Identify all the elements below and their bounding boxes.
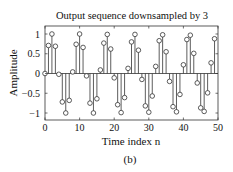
stem-marker-circle bbox=[181, 63, 186, 68]
plot-area bbox=[43, 26, 218, 120]
stem-marker-circle bbox=[195, 81, 200, 86]
y-tick-label: 0.5 bbox=[28, 48, 41, 59]
stem-point bbox=[164, 49, 169, 73]
y-axis-label: Amplitude bbox=[7, 49, 19, 96]
stem-point bbox=[198, 74, 203, 111]
stem-point bbox=[81, 45, 86, 73]
stem-point bbox=[171, 74, 176, 109]
stem-marker-circle bbox=[119, 110, 124, 115]
stem-marker-circle bbox=[126, 66, 131, 71]
stem-point bbox=[119, 74, 124, 115]
stem-marker-circle bbox=[74, 42, 79, 47]
stem-marker-circle bbox=[63, 111, 68, 116]
stem-marker-circle bbox=[50, 32, 55, 37]
stem-point bbox=[70, 70, 75, 75]
stem-marker-circle bbox=[102, 41, 107, 46]
stem-marker-circle bbox=[129, 40, 134, 45]
stem-marker-circle bbox=[60, 100, 65, 105]
stem-point bbox=[150, 74, 155, 99]
stem-marker-circle bbox=[136, 48, 141, 53]
stem-marker-circle bbox=[88, 101, 93, 106]
x-tick-label: 20 bbox=[109, 122, 119, 133]
stem-point bbox=[195, 74, 200, 86]
x-tick-label: 30 bbox=[144, 122, 154, 133]
stem-point bbox=[77, 32, 82, 74]
stem-point bbox=[57, 72, 62, 77]
chart-title: Output sequence downsampled by 3 bbox=[56, 10, 208, 21]
stem-point bbox=[63, 74, 68, 116]
stem-marker-circle bbox=[98, 68, 103, 73]
stem-marker-circle bbox=[205, 91, 210, 96]
stem-point bbox=[88, 74, 93, 106]
stem-marker-circle bbox=[164, 49, 169, 54]
stem-marker-circle bbox=[188, 33, 193, 38]
stem-point bbox=[53, 44, 58, 74]
stem-marker-circle bbox=[202, 109, 207, 114]
y-tick-label: 0 bbox=[35, 68, 40, 79]
stem-point bbox=[167, 74, 172, 84]
stem-point bbox=[140, 74, 145, 82]
figure-caption: (b) bbox=[124, 153, 137, 166]
stem-marker-circle bbox=[147, 110, 152, 115]
stem-marker-circle bbox=[57, 72, 62, 77]
stem-point bbox=[147, 74, 152, 115]
stem-marker-circle bbox=[143, 104, 148, 109]
stem-point bbox=[91, 74, 96, 116]
stem-marker-circle bbox=[171, 104, 176, 109]
stem-point bbox=[46, 43, 51, 73]
stem-marker-circle bbox=[133, 32, 138, 37]
stem-point bbox=[212, 36, 217, 73]
stem-marker-circle bbox=[91, 111, 96, 116]
stem-point bbox=[178, 74, 183, 97]
stem-point bbox=[60, 74, 65, 105]
stem-point bbox=[67, 74, 72, 103]
stem-marker-circle bbox=[95, 96, 100, 101]
x-tick-label: 40 bbox=[178, 122, 188, 133]
stem-marker-circle bbox=[160, 32, 165, 37]
y-tick-label: −0.5 bbox=[22, 88, 40, 99]
stem-point bbox=[108, 47, 113, 74]
stem-marker-circle bbox=[122, 95, 127, 100]
stem-point bbox=[84, 74, 89, 79]
stem-point bbox=[50, 32, 55, 74]
stem-point bbox=[205, 74, 210, 96]
stem-point bbox=[95, 74, 100, 102]
x-tick-label: 10 bbox=[75, 122, 85, 133]
y-tick-label: 1 bbox=[35, 29, 40, 40]
stem-point bbox=[209, 61, 214, 74]
y-tick-label: −1 bbox=[29, 108, 40, 119]
stem-marker-circle bbox=[67, 98, 72, 103]
stem-marker-circle bbox=[46, 43, 51, 48]
stem-marker-circle bbox=[178, 92, 183, 97]
stem-marker-circle bbox=[150, 94, 155, 99]
stem-marker-circle bbox=[112, 76, 117, 81]
stem-point bbox=[122, 74, 127, 100]
stem-marker-circle bbox=[105, 32, 110, 37]
stem-marker-circle bbox=[174, 110, 179, 115]
stem-marker-circle bbox=[157, 38, 162, 43]
x-axis-label: Time index n bbox=[102, 135, 161, 147]
stem-marker-circle bbox=[53, 44, 58, 49]
x-tick-label: 50 bbox=[213, 122, 223, 133]
stem-point bbox=[98, 68, 103, 74]
stem-point bbox=[126, 66, 131, 73]
stem-point bbox=[136, 48, 141, 74]
stem-marker-circle bbox=[108, 47, 113, 52]
stem-point bbox=[153, 64, 158, 73]
stem-point bbox=[105, 32, 110, 73]
stem-marker-circle bbox=[140, 77, 145, 82]
stem-point bbox=[181, 63, 186, 74]
stem-marker-circle bbox=[84, 74, 89, 79]
x-tick-label: 0 bbox=[43, 122, 48, 133]
stem-marker-circle bbox=[191, 51, 196, 56]
stem-marker-circle bbox=[115, 102, 120, 107]
stem-marker-circle bbox=[153, 64, 158, 69]
stem-point bbox=[112, 74, 117, 81]
stem-point bbox=[133, 32, 138, 73]
stem-point bbox=[185, 37, 190, 73]
stem-marker-circle bbox=[81, 45, 86, 50]
stem-marker-circle bbox=[77, 32, 82, 37]
stem-marker-circle bbox=[185, 37, 190, 42]
stem-chart: Output sequence downsampled by 3 0102030… bbox=[0, 0, 233, 172]
stem-marker-circle bbox=[70, 70, 75, 75]
